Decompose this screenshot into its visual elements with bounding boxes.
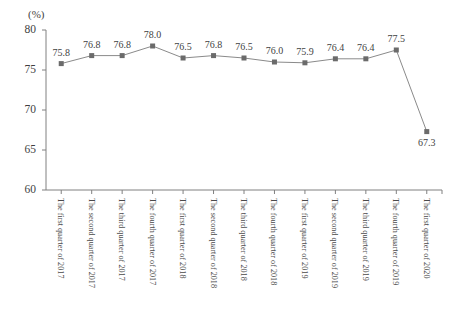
- x-axis-tick-label: The first quarter of 2017: [56, 198, 65, 278]
- data-point-marker: [394, 48, 399, 53]
- data-value-label: 76.8: [113, 39, 131, 50]
- data-point-marker: [59, 61, 64, 66]
- data-point-marker: [302, 60, 307, 65]
- data-value-label: 76.0: [266, 45, 284, 56]
- data-value-label: 76.8: [83, 39, 101, 50]
- x-axis-tick-label: The first quarter of 2018: [178, 198, 187, 278]
- y-axis-tick-label: 70: [12, 103, 36, 115]
- data-value-label: 75.8: [52, 47, 70, 58]
- data-point-marker: [181, 56, 186, 61]
- x-axis-tick-label: The second quarter of 2019: [330, 198, 339, 288]
- x-axis-tick-label: The third quarter of 2017: [117, 198, 126, 281]
- data-value-label: 67.3: [418, 137, 436, 148]
- y-axis-tick-label: 60: [12, 183, 36, 195]
- x-axis-tick-label: The second quarter of 2018: [209, 198, 218, 288]
- data-value-label: 76.8: [205, 39, 223, 50]
- data-value-label: 76.4: [327, 42, 345, 53]
- data-point-marker: [89, 53, 94, 58]
- data-value-label: 77.5: [388, 33, 406, 44]
- y-axis-tick-label: 80: [12, 23, 36, 35]
- data-point-marker: [424, 129, 429, 134]
- data-value-label: 76.5: [235, 41, 253, 52]
- line-chart: (%) 6065707580 75.876.876.878.076.576.87…: [0, 0, 454, 315]
- data-value-label: 78.0: [144, 29, 162, 40]
- data-value-label: 76.5: [174, 41, 192, 52]
- y-axis-tick-label: 65: [12, 143, 36, 155]
- y-axis-tick-label: 75: [12, 63, 36, 75]
- data-value-label: 76.4: [357, 42, 375, 53]
- data-point-marker: [211, 53, 216, 58]
- x-axis-tick-label: The first quarter of 2019: [300, 198, 309, 278]
- data-point-marker: [120, 53, 125, 58]
- x-axis-tick-label: The first quarter of 2020: [422, 198, 431, 278]
- data-point-marker: [242, 56, 247, 61]
- data-point-marker: [333, 56, 338, 61]
- x-axis-tick-label: The third quarter of 2019: [361, 198, 370, 281]
- x-axis-tick-label: The third quarter of 2018: [239, 198, 248, 281]
- series-markers-group: [59, 44, 430, 135]
- x-axis-tick-label: The fourth quarter of 2019: [391, 198, 400, 285]
- data-point-marker: [363, 56, 368, 61]
- x-axis-tick-label: The fourth quarter of 2017: [148, 198, 157, 285]
- x-axis-tick-label: The second quarter of 2017: [87, 198, 96, 288]
- x-axis-tick-label: The fourth quarter of 2018: [269, 198, 278, 285]
- data-value-label: 75.9: [296, 46, 314, 57]
- data-point-marker: [272, 60, 277, 65]
- data-point-marker: [150, 44, 155, 49]
